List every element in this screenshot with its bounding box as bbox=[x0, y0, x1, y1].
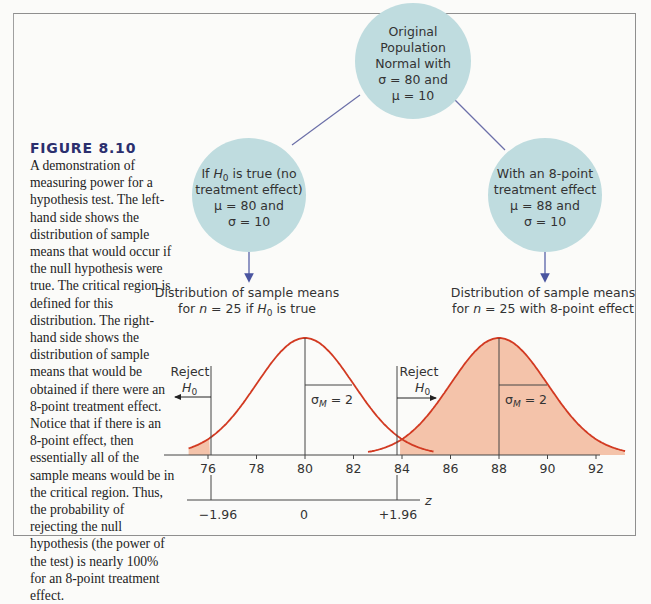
node-left-line-1: If H0 is true (no bbox=[201, 166, 296, 183]
z-tick-pos: +1.96 bbox=[379, 507, 417, 522]
sigma-label-right: σM = 2 bbox=[505, 392, 547, 409]
node-left-line-3: μ = 80 and bbox=[214, 198, 284, 213]
node-left-line-2: treatment effect) bbox=[195, 182, 302, 197]
connector-left bbox=[292, 95, 360, 145]
x-tick-label: 88 bbox=[491, 461, 507, 476]
node-right-line-4: σ = 10 bbox=[524, 214, 566, 229]
x-tick-label: 90 bbox=[540, 461, 556, 476]
dist-label-right-line-2: for n = 25 with 8-point effect bbox=[452, 301, 634, 316]
x-tick-label: 78 bbox=[249, 461, 265, 476]
node-right-line-2: treatment effect bbox=[494, 182, 597, 197]
x-axis-ticks: 767880828486889092 bbox=[200, 455, 604, 476]
node-left-line-4: σ = 10 bbox=[228, 214, 270, 229]
critical-region-shading bbox=[189, 338, 625, 455]
sigma-label-left: σM = 2 bbox=[311, 392, 353, 409]
node-top-line-3: Normal with bbox=[375, 56, 451, 71]
node-top-line-4: σ = 80 and bbox=[378, 72, 448, 87]
node-top-line-1: Original bbox=[389, 24, 438, 39]
dist-label-left-line-1: Distribution of sample means bbox=[155, 285, 339, 300]
dist-label-left-line-2: for n = 25 if H0 is true bbox=[178, 301, 316, 318]
node-top-line-5: μ = 10 bbox=[392, 88, 434, 103]
reject-h0-right: H0 bbox=[415, 380, 430, 397]
reject-label-left: Reject bbox=[171, 364, 210, 379]
node-top-line-2: Population bbox=[380, 40, 446, 55]
connector-right bbox=[450, 95, 505, 150]
node-right-line-1: With an 8-point bbox=[497, 166, 593, 181]
node-right-line-3: μ = 88 and bbox=[510, 198, 580, 213]
z-tick-neg: −1.96 bbox=[199, 507, 237, 522]
x-tick-label: 76 bbox=[200, 461, 216, 476]
dist-label-right-line-1: Distribution of sample means bbox=[451, 285, 635, 300]
z-axis-label: z bbox=[424, 493, 432, 508]
reject-label-right: Reject bbox=[400, 364, 439, 379]
reject-h0-left: H0 bbox=[182, 380, 197, 397]
x-tick-label: 82 bbox=[346, 461, 362, 476]
x-tick-label: 92 bbox=[588, 461, 604, 476]
x-tick-label: 84 bbox=[394, 461, 410, 476]
x-tick-label: 86 bbox=[443, 461, 459, 476]
z-tick-zero: 0 bbox=[300, 507, 308, 522]
x-tick-label: 80 bbox=[297, 461, 313, 476]
